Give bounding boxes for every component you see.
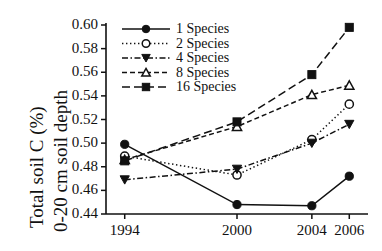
chart-container: Total soil C (%) 0-20 cm soil depth 0.60… [0,0,382,251]
legend-entry-sample-5 [122,83,170,90]
legend-entry-sample-4 [122,68,170,76]
legend-entry-sample-3 [122,54,170,62]
legend-entry-sample-1 [122,25,170,33]
legend-entry-sample-2 [122,40,170,48]
series-5 [121,23,354,164]
plot-area [0,0,382,251]
